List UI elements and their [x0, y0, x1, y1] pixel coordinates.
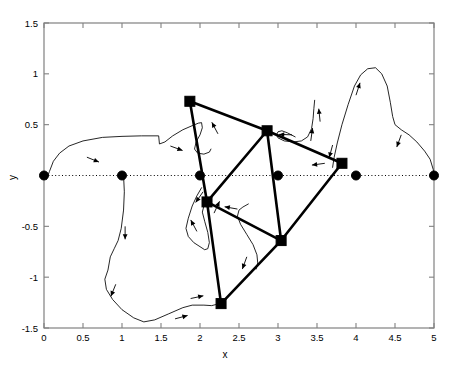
direction-arrow: [312, 162, 325, 167]
y-tick-label: -0.5: [22, 221, 38, 232]
x-tick-label: 4.5: [388, 332, 401, 343]
marker-circle: [430, 171, 439, 180]
x-tick-label: 1: [119, 332, 124, 343]
direction-arrow: [111, 284, 116, 296]
direction-arrow: [87, 157, 99, 162]
x-tick-label: 3: [275, 332, 280, 343]
marker-square: [216, 299, 226, 309]
mesh-edge: [281, 163, 342, 240]
figure-canvas: 00.511.522.533.544.55-1.5-1-0.50.511.5 x…: [0, 0, 450, 369]
direction-arrow: [242, 257, 247, 269]
trajectory-inner-center-curve: [237, 204, 257, 269]
direction-arrow: [191, 295, 204, 300]
direction-arrow: [317, 109, 322, 122]
marker-circle: [274, 171, 283, 180]
x-tick-label: 5: [431, 332, 436, 343]
x-tick-label: 0.5: [76, 332, 89, 343]
x-tick-label: 2.5: [232, 332, 245, 343]
marker-square: [337, 158, 347, 168]
direction-arrow: [191, 220, 197, 231]
mesh-edge: [221, 241, 281, 304]
y-axis-label: y: [7, 158, 18, 198]
direction-arrow: [123, 226, 128, 239]
trajectory-outer-upper-left: [44, 123, 211, 180]
mesh-edge: [267, 131, 281, 241]
marker-square: [262, 126, 272, 136]
direction-arrow: [175, 315, 188, 320]
plot-area: 00.511.522.533.544.55-1.5-1-0.50.511.5: [0, 0, 450, 369]
marker-circle: [196, 171, 205, 180]
direction-arrow: [328, 145, 333, 158]
direction-arrow: [170, 146, 182, 151]
y-tick-label: 1: [33, 68, 38, 79]
mesh-edge: [190, 101, 207, 202]
direction-arrow: [356, 83, 361, 95]
direction-arrow: [225, 205, 238, 210]
trajectory-outer-right-peak: [333, 68, 434, 176]
mesh-edge: [267, 131, 342, 164]
x-tick-label: 2: [197, 332, 202, 343]
marker-square: [276, 236, 286, 246]
x-tick-label: 3.5: [310, 332, 323, 343]
mesh-edge: [207, 202, 281, 241]
marker-circle: [118, 171, 127, 180]
x-tick-label: 4: [353, 332, 358, 343]
marker-square: [185, 96, 195, 106]
direction-arrow: [396, 135, 401, 147]
y-tick-label: -1.5: [22, 323, 38, 334]
direction-arrow: [212, 122, 218, 133]
y-tick-label: -1: [30, 272, 38, 283]
x-axis-label: x: [0, 349, 450, 360]
y-tick-label: 1.5: [25, 18, 38, 29]
mesh-edge: [207, 202, 221, 304]
y-tick-label: 0.5: [25, 119, 38, 130]
marker-circle: [40, 171, 49, 180]
x-tick-label: 0: [41, 332, 46, 343]
marker-square: [202, 197, 212, 207]
mesh-edge: [190, 101, 267, 130]
x-tick-label: 1.5: [154, 332, 167, 343]
mesh-edge: [207, 131, 267, 202]
marker-circle: [352, 171, 361, 180]
direction-arrow: [309, 128, 314, 141]
